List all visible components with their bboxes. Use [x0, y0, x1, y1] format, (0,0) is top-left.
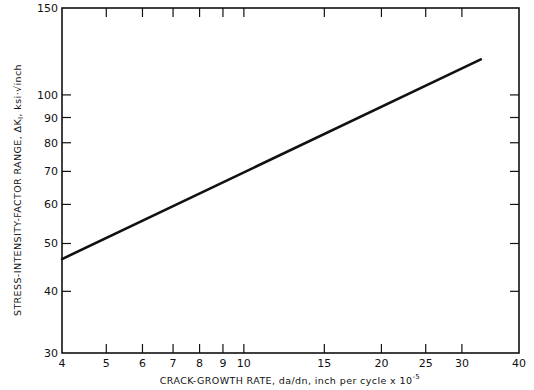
- x-tick-label: 25: [419, 357, 433, 370]
- x-tick-label: 7: [170, 357, 177, 370]
- y-axis-title: STRESS-INTENSITY-FACTOR RANGE, ΔKI, ksi·…: [12, 64, 25, 316]
- x-axis-title: CRACK-GROWTH RATE, da/dn, inch per cycle…: [160, 373, 420, 386]
- x-tick-label: 10: [237, 357, 251, 370]
- y-tick-label: 30: [44, 347, 58, 360]
- y-tick-label: 40: [44, 285, 58, 298]
- x-tick-label: 9: [219, 357, 226, 370]
- y-tick-label: 100: [37, 89, 58, 102]
- y-tick-label: 80: [44, 137, 58, 150]
- y-tick-label: 90: [44, 112, 58, 125]
- log-log-chart: 456789101520253040 30405060708090100150 …: [0, 0, 534, 390]
- y-tick-label: 60: [44, 198, 58, 211]
- x-tick-label: 6: [139, 357, 146, 370]
- y-tick-label: 50: [44, 237, 58, 250]
- y-tick-label: 150: [37, 2, 58, 15]
- x-tick-label: 20: [374, 357, 388, 370]
- data-line: [62, 59, 481, 259]
- x-axis-ticks: 456789101520253040: [59, 8, 527, 370]
- x-tick-label: 5: [103, 357, 110, 370]
- x-tick-label: 40: [512, 357, 526, 370]
- x-tick-label: 8: [196, 357, 203, 370]
- y-axis-ticks: 30405060708090100150: [37, 2, 519, 360]
- x-tick-label: 4: [59, 357, 66, 370]
- x-tick-label: 15: [317, 357, 331, 370]
- x-tick-label: 30: [455, 357, 469, 370]
- plot-frame: [62, 8, 519, 353]
- y-tick-label: 70: [44, 165, 58, 178]
